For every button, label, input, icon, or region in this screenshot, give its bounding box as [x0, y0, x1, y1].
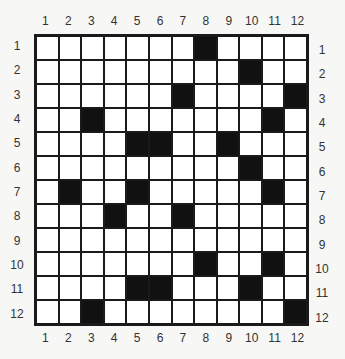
white-cell[interactable]	[239, 252, 262, 276]
white-cell[interactable]	[149, 300, 172, 324]
white-cell[interactable]	[149, 204, 172, 228]
white-cell[interactable]	[194, 300, 217, 324]
white-cell[interactable]	[36, 252, 59, 276]
white-cell[interactable]	[81, 36, 104, 60]
white-cell[interactable]	[262, 36, 285, 60]
white-cell[interactable]	[104, 36, 127, 60]
white-cell[interactable]	[172, 228, 195, 252]
white-cell[interactable]	[36, 108, 59, 132]
white-cell[interactable]	[194, 108, 217, 132]
white-cell[interactable]	[172, 252, 195, 276]
white-cell[interactable]	[284, 276, 307, 300]
white-cell[interactable]	[239, 228, 262, 252]
white-cell[interactable]	[149, 60, 172, 84]
white-cell[interactable]	[59, 108, 82, 132]
white-cell[interactable]	[126, 84, 149, 108]
white-cell[interactable]	[81, 228, 104, 252]
white-cell[interactable]	[36, 132, 59, 156]
white-cell[interactable]	[104, 276, 127, 300]
white-cell[interactable]	[149, 156, 172, 180]
white-cell[interactable]	[284, 228, 307, 252]
white-cell[interactable]	[104, 300, 127, 324]
white-cell[interactable]	[81, 276, 104, 300]
white-cell[interactable]	[239, 84, 262, 108]
white-cell[interactable]	[172, 108, 195, 132]
white-cell[interactable]	[262, 276, 285, 300]
white-cell[interactable]	[104, 156, 127, 180]
white-cell[interactable]	[36, 276, 59, 300]
white-cell[interactable]	[172, 156, 195, 180]
white-cell[interactable]	[149, 180, 172, 204]
white-cell[interactable]	[194, 276, 217, 300]
white-cell[interactable]	[194, 156, 217, 180]
white-cell[interactable]	[81, 204, 104, 228]
white-cell[interactable]	[126, 108, 149, 132]
white-cell[interactable]	[194, 180, 217, 204]
white-cell[interactable]	[262, 60, 285, 84]
white-cell[interactable]	[59, 228, 82, 252]
white-cell[interactable]	[239, 108, 262, 132]
white-cell[interactable]	[126, 228, 149, 252]
white-cell[interactable]	[284, 252, 307, 276]
white-cell[interactable]	[104, 228, 127, 252]
white-cell[interactable]	[59, 132, 82, 156]
white-cell[interactable]	[284, 60, 307, 84]
white-cell[interactable]	[36, 156, 59, 180]
white-cell[interactable]	[239, 300, 262, 324]
white-cell[interactable]	[217, 228, 240, 252]
white-cell[interactable]	[59, 276, 82, 300]
white-cell[interactable]	[36, 36, 59, 60]
white-cell[interactable]	[217, 204, 240, 228]
white-cell[interactable]	[126, 60, 149, 84]
white-cell[interactable]	[217, 156, 240, 180]
white-cell[interactable]	[284, 132, 307, 156]
white-cell[interactable]	[104, 60, 127, 84]
white-cell[interactable]	[262, 156, 285, 180]
white-cell[interactable]	[36, 204, 59, 228]
white-cell[interactable]	[284, 108, 307, 132]
white-cell[interactable]	[194, 84, 217, 108]
white-cell[interactable]	[262, 132, 285, 156]
white-cell[interactable]	[81, 180, 104, 204]
white-cell[interactable]	[104, 84, 127, 108]
white-cell[interactable]	[126, 252, 149, 276]
white-cell[interactable]	[172, 300, 195, 324]
white-cell[interactable]	[194, 132, 217, 156]
white-cell[interactable]	[217, 84, 240, 108]
white-cell[interactable]	[59, 60, 82, 84]
white-cell[interactable]	[262, 84, 285, 108]
white-cell[interactable]	[194, 228, 217, 252]
white-cell[interactable]	[59, 36, 82, 60]
white-cell[interactable]	[104, 252, 127, 276]
white-cell[interactable]	[81, 156, 104, 180]
white-cell[interactable]	[126, 204, 149, 228]
white-cell[interactable]	[172, 60, 195, 84]
white-cell[interactable]	[36, 228, 59, 252]
white-cell[interactable]	[194, 204, 217, 228]
white-cell[interactable]	[284, 180, 307, 204]
white-cell[interactable]	[262, 204, 285, 228]
white-cell[interactable]	[149, 36, 172, 60]
white-cell[interactable]	[172, 36, 195, 60]
white-cell[interactable]	[59, 84, 82, 108]
white-cell[interactable]	[217, 108, 240, 132]
white-cell[interactable]	[194, 60, 217, 84]
white-cell[interactable]	[149, 108, 172, 132]
white-cell[interactable]	[217, 36, 240, 60]
white-cell[interactable]	[59, 156, 82, 180]
white-cell[interactable]	[81, 84, 104, 108]
white-cell[interactable]	[59, 204, 82, 228]
white-cell[interactable]	[104, 108, 127, 132]
white-cell[interactable]	[36, 60, 59, 84]
white-cell[interactable]	[36, 300, 59, 324]
white-cell[interactable]	[126, 156, 149, 180]
white-cell[interactable]	[217, 60, 240, 84]
white-cell[interactable]	[59, 300, 82, 324]
white-cell[interactable]	[172, 180, 195, 204]
white-cell[interactable]	[81, 252, 104, 276]
white-cell[interactable]	[239, 36, 262, 60]
white-cell[interactable]	[104, 180, 127, 204]
white-cell[interactable]	[239, 132, 262, 156]
white-cell[interactable]	[81, 60, 104, 84]
white-cell[interactable]	[217, 276, 240, 300]
